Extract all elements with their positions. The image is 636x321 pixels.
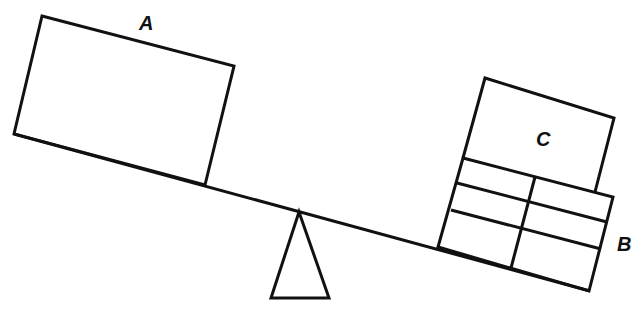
label-a: A [138,12,153,34]
seesaw-diagram: A C B [0,0,636,321]
block-b-column-divider [511,177,535,268]
block-b-stack [438,158,613,291]
label-c: C [536,128,551,150]
label-b: B [617,233,631,255]
block-a [14,16,234,185]
fulcrum-triangle [271,212,329,298]
